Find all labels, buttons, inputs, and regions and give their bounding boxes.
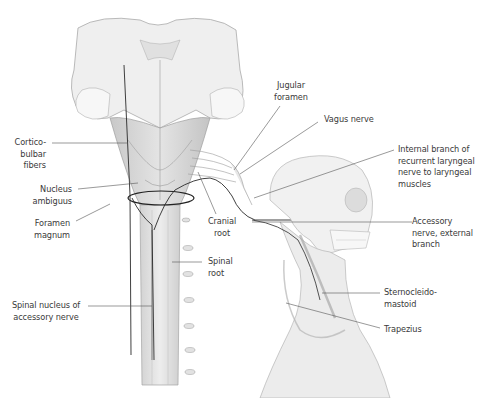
label-jugular-foramen: Jugular foramen — [268, 80, 314, 103]
label-trapezius: Trapezius — [384, 324, 444, 336]
label-internal-branch: Internal branch of recurrent laryngeal n… — [398, 144, 486, 190]
label-spinal-root: Spinal root — [208, 256, 244, 279]
cerebellum-peduncles — [71, 18, 244, 128]
label-accessory-external: Accessory nerve, external branch — [412, 216, 486, 251]
spinal-cord — [140, 205, 180, 385]
accessory-nerve-figure: Cortico- bulbar fibers Nucleus ambiguus … — [0, 0, 486, 398]
label-corticobulbar-fibers: Cortico- bulbar fibers — [6, 137, 46, 172]
label-sternocleidomastoid: Sternocleido- mastoid — [384, 287, 464, 310]
label-nucleus-ambiguus: Nucleus ambiguus — [18, 184, 72, 207]
anatomy-illustration — [0, 0, 486, 398]
label-foramen-magnum: Foramen magnum — [18, 218, 70, 241]
spinal-rootlets — [182, 218, 195, 375]
label-vagus-nerve: Vagus nerve — [324, 114, 414, 126]
label-cranial-root: Cranial root — [204, 216, 240, 239]
head-skull — [270, 156, 373, 253]
label-spinal-nucleus: Spinal nucleus of accessory nerve — [8, 300, 84, 323]
